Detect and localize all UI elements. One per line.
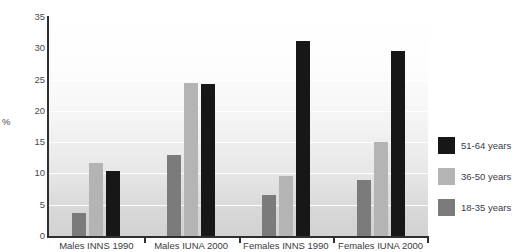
bar-group: [49, 17, 144, 236]
bar-group: [333, 17, 428, 236]
y-axis-title: %: [2, 116, 10, 127]
y-tick-label: 15: [23, 137, 45, 147]
bar[interactable]: [89, 163, 103, 236]
bar[interactable]: [296, 41, 310, 236]
y-tick-label: 20: [23, 106, 45, 116]
chart-title: [34, 0, 334, 2]
x-axis-tick: [144, 236, 146, 243]
legend-item[interactable]: 18-35 years: [438, 196, 516, 218]
y-tick-label: 25: [23, 75, 45, 85]
bar[interactable]: [106, 171, 120, 236]
legend: 51-64 years36-50 years18-35 years: [438, 134, 516, 227]
x-axis-category-label: Females IUNA 2000: [333, 240, 428, 252]
x-axis-tick: [427, 236, 429, 243]
x-axis-tick: [333, 236, 335, 243]
bar[interactable]: [374, 142, 388, 236]
y-tick-label: 0: [23, 231, 45, 241]
bar[interactable]: [357, 180, 371, 236]
plot-area: [49, 17, 428, 236]
legend-item[interactable]: 51-64 years: [438, 134, 516, 156]
y-tick-label: 10: [23, 168, 45, 178]
y-tick-label: 30: [23, 43, 45, 53]
legend-label: 18-35 years: [461, 202, 511, 213]
bar[interactable]: [167, 155, 181, 236]
bar-groups: [49, 17, 428, 236]
x-axis-category-label: Females INNS 1990: [239, 240, 334, 252]
bar[interactable]: [72, 213, 86, 236]
legend-label: 36-50 years: [461, 171, 511, 182]
legend-swatch: [438, 199, 455, 216]
bar-group: [239, 17, 334, 236]
bar-chart: 35302520151050 % Males INNS 1990Males IU…: [0, 0, 516, 252]
bar[interactable]: [184, 83, 198, 236]
bar[interactable]: [201, 84, 215, 236]
x-axis-line: [47, 236, 428, 238]
legend-item[interactable]: 36-50 years: [438, 165, 516, 187]
legend-swatch: [438, 168, 455, 185]
legend-label: 51-64 years: [461, 140, 511, 151]
y-tick-label: 5: [23, 200, 45, 210]
x-axis-category-label: Males INNS 1990: [49, 240, 144, 252]
x-axis-category-label: Males IUNA 2000: [144, 240, 239, 252]
bar[interactable]: [262, 195, 276, 236]
legend-swatch: [438, 137, 455, 154]
y-tick-label: 35: [23, 12, 45, 22]
bar[interactable]: [391, 51, 405, 236]
bar[interactable]: [279, 176, 293, 236]
bar-group: [144, 17, 239, 236]
x-axis-tick: [239, 236, 241, 243]
